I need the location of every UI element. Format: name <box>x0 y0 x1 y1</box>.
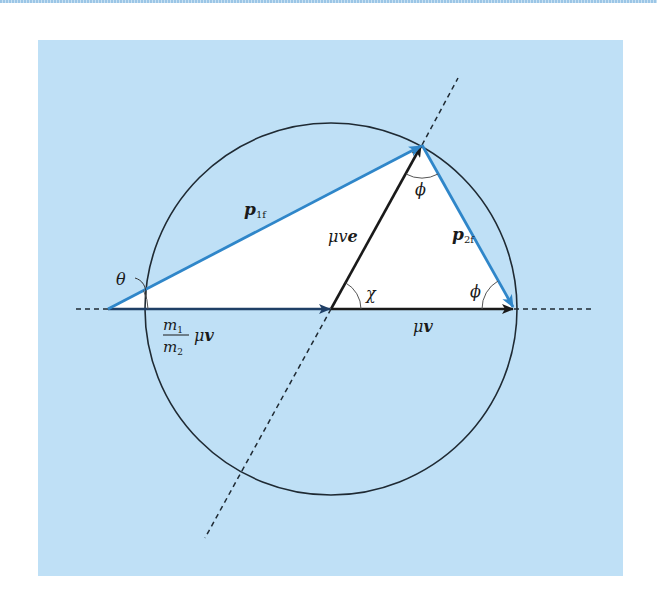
label-theta: θ <box>116 270 126 289</box>
oblique-dashed-axis-lower <box>205 309 331 538</box>
svg-text:m1: m1 <box>163 316 183 335</box>
collision-diagram: p1f p2f μve μv m1 m2 μv θ χ ϕ ϕ <box>0 0 657 613</box>
label-mass-ratio: m1 m2 μv <box>163 316 214 357</box>
label-p2f: p2f <box>452 224 475 245</box>
svg-text:m2: m2 <box>163 338 183 357</box>
label-chi: χ <box>365 284 377 303</box>
label-phi-right: ϕ <box>470 282 481 301</box>
label-phi-top: ϕ <box>415 180 426 199</box>
svg-text:μv: μv <box>194 326 214 345</box>
label-mu-v: μv <box>413 317 433 336</box>
label-p1f: p1f <box>244 199 267 220</box>
oblique-dashed-axis-upper <box>422 78 458 145</box>
label-mu-v-e: μve <box>328 227 358 246</box>
